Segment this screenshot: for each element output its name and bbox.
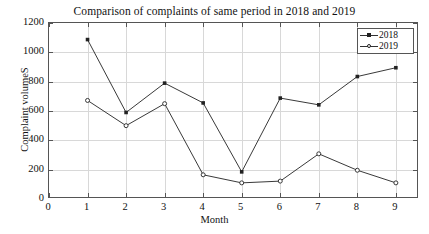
x-tick-label: 3 <box>149 202 179 212</box>
circle-marker-icon <box>367 44 371 48</box>
chart-legend: 2018 2019 <box>357 28 414 54</box>
x-tick-label: 1 <box>72 202 102 212</box>
legend-swatch-2018 <box>360 30 378 41</box>
y-axis-title: Complaint volumeS <box>19 40 30 180</box>
legend-label-2019: 2019 <box>378 41 398 52</box>
legend-swatch-2019 <box>360 41 378 52</box>
legend-item-2018: 2018 <box>360 30 411 41</box>
x-axis-title: Month <box>0 214 429 225</box>
x-tick-label: 4 <box>187 202 217 212</box>
legend-item-2019: 2019 <box>360 41 411 52</box>
x-tick-label: 8 <box>341 202 371 212</box>
square-marker-icon <box>367 33 371 37</box>
x-tick-label: 0 <box>33 202 63 212</box>
legend-label-2018: 2018 <box>378 30 398 41</box>
x-tick-label: 6 <box>264 202 294 212</box>
x-tick-label: 2 <box>110 202 140 212</box>
chart-figure: Comparison of complaints of same period … <box>0 0 429 234</box>
x-tick-label: 5 <box>226 202 256 212</box>
x-tick-label: 7 <box>303 202 333 212</box>
x-tick-label: 9 <box>380 202 410 212</box>
